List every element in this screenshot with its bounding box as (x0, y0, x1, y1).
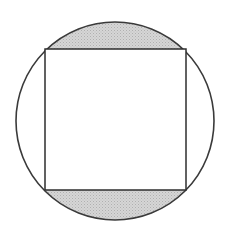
geometry-figure: Square inscribed in a circle with shaded… (0, 0, 226, 232)
figure-canvas: Square inscribed in a circle with shaded… (0, 0, 226, 232)
inner-square (45, 49, 186, 190)
